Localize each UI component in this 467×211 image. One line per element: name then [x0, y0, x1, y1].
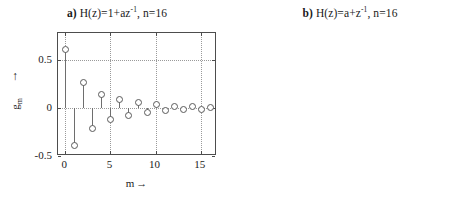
xaxis-tick	[156, 33, 157, 36]
panel-b-title: b) H(z)=a+z-1, n=16	[233, 7, 467, 20]
data-point-marker	[116, 96, 123, 103]
panel-a: a) H(z)=1+az-1, n=16 ↑ gm m→ 0510150.50-…	[0, 0, 234, 211]
panel-b-title-tail: , n=16	[367, 7, 397, 19]
panel-a-title: a) H(z)=1+az-1, n=16	[0, 7, 234, 20]
xaxis-tick-label: 10	[138, 158, 172, 170]
xaxis-tick	[65, 151, 66, 154]
yaxis-tick-label: 0	[10, 101, 52, 113]
stem-line	[65, 49, 66, 108]
panel-b-title-text: H(z)=a+z	[316, 7, 361, 19]
data-point-marker	[189, 103, 196, 110]
panel-a-title-tail: , n=16	[137, 7, 167, 19]
yaxis-tick-label: 0.5	[10, 53, 52, 65]
panel-a-title-text: H(z)=1+az	[80, 7, 131, 19]
data-point-marker	[162, 107, 169, 114]
data-point-marker	[62, 46, 69, 53]
xaxis-tick	[201, 151, 202, 154]
panel-a-tag: a)	[67, 7, 77, 19]
xaxis-tick	[156, 151, 157, 154]
xaxis-tick-label: 15	[183, 158, 217, 170]
data-point-marker	[80, 79, 87, 86]
data-point-marker	[180, 106, 187, 113]
data-point-marker	[207, 104, 214, 111]
data-point-marker	[107, 116, 114, 123]
gridline-horizontal	[58, 60, 215, 61]
data-point-marker	[71, 142, 78, 149]
data-point-marker	[153, 101, 160, 108]
yaxis-tick	[212, 156, 215, 157]
xaxis-tick	[201, 33, 202, 36]
data-point-marker	[89, 125, 96, 132]
gridline-vertical	[201, 33, 202, 154]
data-point-marker	[125, 112, 132, 119]
xaxis-tick	[65, 33, 66, 36]
data-point-marker	[98, 91, 105, 98]
data-point-marker	[144, 109, 151, 116]
yaxis-tick-label: -0.5	[10, 149, 52, 161]
figure-container: a) H(z)=1+az-1, n=16 ↑ gm m→ 0510150.50-…	[0, 0, 467, 211]
yaxis-tick	[58, 108, 61, 109]
xaxis-tick	[110, 33, 111, 36]
data-point-marker	[198, 106, 205, 113]
xaxis-tick-label: 5	[92, 158, 126, 170]
gridline-vertical	[156, 33, 157, 154]
panel-b: b) H(z)=a+z-1, n=16 ↑ gm m→ 05101510.50	[233, 0, 467, 211]
stem-line	[74, 108, 75, 145]
gridline-vertical	[110, 33, 111, 154]
yaxis-tick	[212, 60, 215, 61]
panel-a-plot-area	[57, 32, 216, 155]
panel-a-xaxis-label: m→	[57, 177, 216, 189]
xaxis-tick	[110, 151, 111, 154]
yaxis-tick	[58, 60, 61, 61]
panel-a-yaxis-arrow: ↑	[7, 70, 23, 82]
xaxis-tick-label: 0	[47, 158, 81, 170]
data-point-marker	[135, 99, 142, 106]
yaxis-tick	[58, 156, 61, 157]
panel-b-tag: b)	[302, 7, 312, 19]
data-point-marker	[171, 103, 178, 110]
